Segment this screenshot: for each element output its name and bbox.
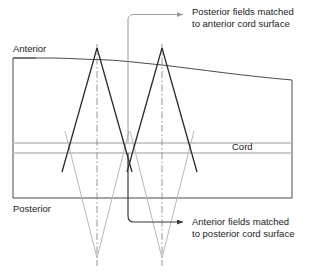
annotation-bottom-line2: to posterior cord surface [192,228,294,240]
leader-line-bottom [128,153,183,222]
anterior-surface-contour [13,58,292,80]
posterior-beam-right-edge-2 [162,131,194,258]
posterior-beam-right-edge-1 [97,131,129,258]
posterior-beam-fields [65,131,194,258]
central-axes [97,44,162,266]
figure-field-matching: Anterior Posterior Cord Posterior fields… [0,0,313,277]
leader-bottom-path [128,153,183,222]
posterior-beam-left-edge-2 [130,131,162,258]
annotation-bottom-line1: Anterior fields matched [192,216,294,228]
annotation-top-line2: to anterior cord surface [192,18,294,30]
label-cord: Cord [232,141,253,153]
body-outline [13,58,292,198]
annotation-top-line1: Posterior fields matched [192,6,294,18]
posterior-beam-left-edge-1 [65,131,97,258]
leader-top-path [128,15,183,143]
annotation-posterior-fields: Posterior fields matched to anterior cor… [192,6,294,29]
annotation-anterior-fields: Anterior fields matched to posterior cor… [192,216,294,239]
label-anterior: Anterior [13,43,46,55]
leader-line-top [128,15,183,143]
label-posterior: Posterior [13,203,51,215]
